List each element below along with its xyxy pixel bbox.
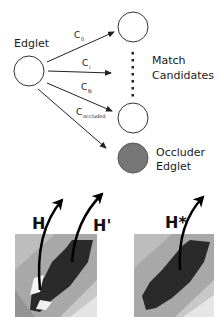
svg-text:N: N	[88, 88, 92, 94]
svg-text:C: C	[82, 58, 88, 68]
figure: Edglet Match Candidates Occluder Edglet …	[0, 0, 221, 322]
candidates-label-line2: Candidates	[152, 69, 214, 82]
svg-text:occluded: occluded	[83, 113, 106, 119]
candidates-label-line1: Match	[152, 54, 186, 67]
label-h: H	[32, 214, 45, 233]
edge-label-c0: C 0	[74, 30, 84, 42]
edge-label-ci: C i	[82, 58, 90, 70]
edge-label-coccluded: C occluded	[76, 107, 106, 119]
svg-text:0: 0	[81, 36, 84, 42]
label-h-prime: H'	[93, 216, 111, 235]
edge-label-cn: C N	[81, 82, 92, 94]
image-panel-left	[15, 234, 97, 317]
svg-text:C: C	[81, 82, 87, 92]
occluder-label-line1: Occluder	[156, 146, 206, 159]
image-panel-right	[134, 234, 214, 317]
source-node-circle	[14, 56, 44, 86]
candidate-node-top	[118, 12, 148, 42]
label-h-star: H*	[165, 213, 187, 232]
svg-text:C: C	[76, 107, 82, 117]
svg-text:C: C	[74, 30, 80, 40]
edge-ci	[48, 71, 111, 73]
svg-text:i: i	[89, 64, 90, 70]
occluder-node	[118, 143, 148, 173]
source-node-label: Edglet	[14, 37, 50, 50]
occluder-label-line2: Edglet	[156, 160, 192, 173]
ellipsis-dots	[132, 52, 135, 97]
candidate-node-bottom	[118, 103, 148, 133]
